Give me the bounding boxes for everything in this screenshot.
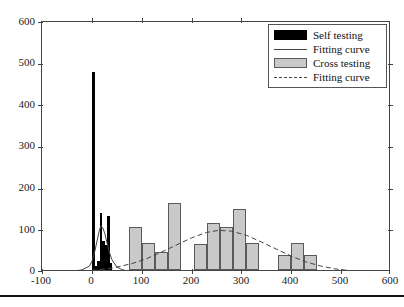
self-testing-swatch-icon xyxy=(273,29,307,41)
solid-line-swatch-icon xyxy=(273,43,307,55)
dashed-line-swatch-icon xyxy=(273,71,307,83)
x-tick-label: 200 xyxy=(171,275,211,286)
legend-item-cross-fitting-curve: Fitting curve xyxy=(273,70,382,84)
page-divider-rule xyxy=(0,295,404,297)
plot-area: Self testing Fitting curve Cross testing… xyxy=(41,21,390,271)
chart-legend: Self testing Fitting curve Cross testing… xyxy=(268,24,387,88)
x-tick-label: 400 xyxy=(270,275,310,286)
x-tick-label: 0 xyxy=(71,275,111,286)
legend-label: Cross testing xyxy=(313,57,370,69)
legend-item-self-testing: Self testing xyxy=(273,28,382,42)
cross-testing-swatch-icon xyxy=(273,57,307,69)
cross-fitting-curve xyxy=(52,230,389,270)
y-tick-label: 300 xyxy=(3,140,35,151)
x-tick-label: 300 xyxy=(221,275,261,286)
y-tick-label: 200 xyxy=(3,182,35,193)
legend-item-self-fitting-curve: Fitting curve xyxy=(273,42,382,56)
x-tick-label: 500 xyxy=(320,275,360,286)
legend-label: Fitting curve xyxy=(313,71,370,83)
y-tick-label: 400 xyxy=(3,99,35,110)
legend-item-cross-testing: Cross testing xyxy=(273,56,382,70)
x-tick-label: 600 xyxy=(370,275,404,286)
y-tick-label: 600 xyxy=(3,16,35,27)
x-tick-label: 100 xyxy=(121,275,161,286)
legend-label: Self testing xyxy=(313,29,363,41)
legend-label: Fitting curve xyxy=(313,43,370,55)
histogram-figure: 600 500 400 300 200 100 0 -100 0 100 200… xyxy=(0,0,404,307)
y-tick-label: 500 xyxy=(3,57,35,68)
x-tick-label: -100 xyxy=(21,275,61,286)
y-tick-label: 100 xyxy=(3,224,35,235)
x-axis-tick xyxy=(389,269,390,274)
